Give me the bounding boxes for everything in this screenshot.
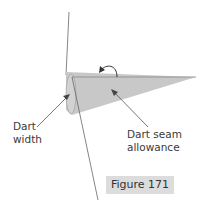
dart-width-label-line2: width <box>13 133 42 146</box>
dart-roll <box>66 74 76 114</box>
dart-fold-shape <box>66 72 196 115</box>
dart-width-label-line1: Dart <box>13 120 42 133</box>
seam-allowance-label: Dart seam allowance <box>127 128 182 154</box>
seam-label-line2: allowance <box>127 141 182 154</box>
dart-width-label: Dart width <box>13 120 42 146</box>
fabric-edge-line <box>66 12 69 75</box>
dart-diagram: Dart width Dart seam allowance Figure 17… <box>0 0 214 216</box>
figure-caption: Figure 171 <box>106 176 174 194</box>
seam-label-line1: Dart seam <box>127 128 182 141</box>
